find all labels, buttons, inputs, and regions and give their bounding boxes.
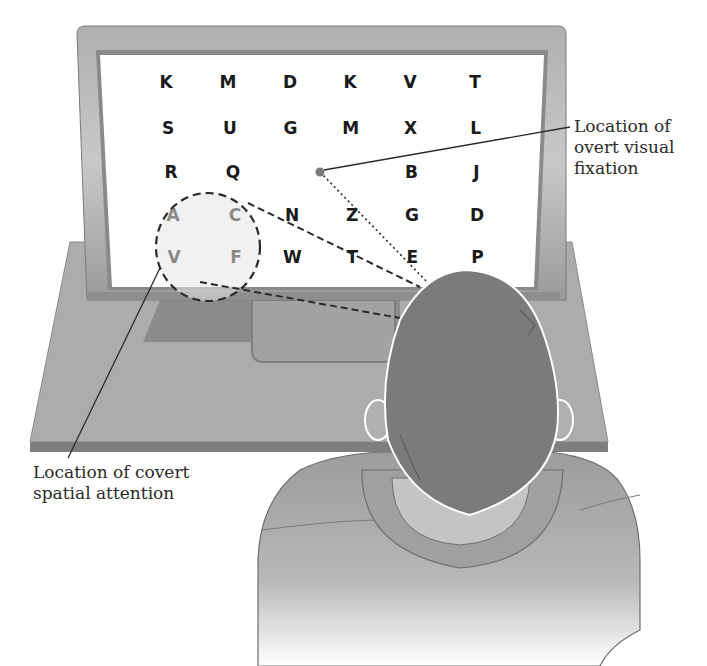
grid-letter: E: [407, 247, 419, 267]
grid-letter: K: [159, 72, 173, 92]
grid-letter: B: [405, 162, 418, 182]
grid-letter: S: [162, 118, 174, 138]
grid-letter: T: [469, 72, 481, 92]
grid-letter: X: [404, 118, 417, 138]
fixation-point: [316, 168, 325, 177]
grid-letter: Z: [346, 205, 358, 225]
grid-letter: P: [471, 247, 483, 267]
grid-letter: V: [403, 72, 417, 92]
grid-letter: K: [343, 72, 357, 92]
covert-attention-label: Location of covert spatial attention: [33, 462, 189, 504]
grid-letter: G: [284, 118, 298, 138]
grid-letter: G: [405, 205, 419, 225]
fixation-label: Location of overt visual fixation: [574, 116, 675, 179]
grid-letter: R: [164, 162, 177, 182]
grid-letter: W: [283, 247, 302, 267]
grid-letter: M: [342, 118, 359, 138]
attention-diagram: KMDKVTSUGMXLRQBJACNZGDVFWTEP: [0, 0, 707, 666]
grid-letter: D: [283, 72, 297, 92]
diagram-canvas: KMDKVTSUGMXLRQBJACNZGDVFWTEP: [0, 0, 707, 666]
covert-attention-circle: [156, 193, 260, 301]
grid-letter: Q: [226, 162, 240, 182]
grid-letter: L: [470, 118, 481, 138]
grid-letter: D: [470, 205, 484, 225]
grid-letter: J: [472, 162, 479, 182]
grid-letter: N: [285, 205, 299, 225]
monitor: [77, 26, 566, 300]
grid-letter: U: [223, 118, 237, 138]
grid-letter: M: [220, 72, 237, 92]
